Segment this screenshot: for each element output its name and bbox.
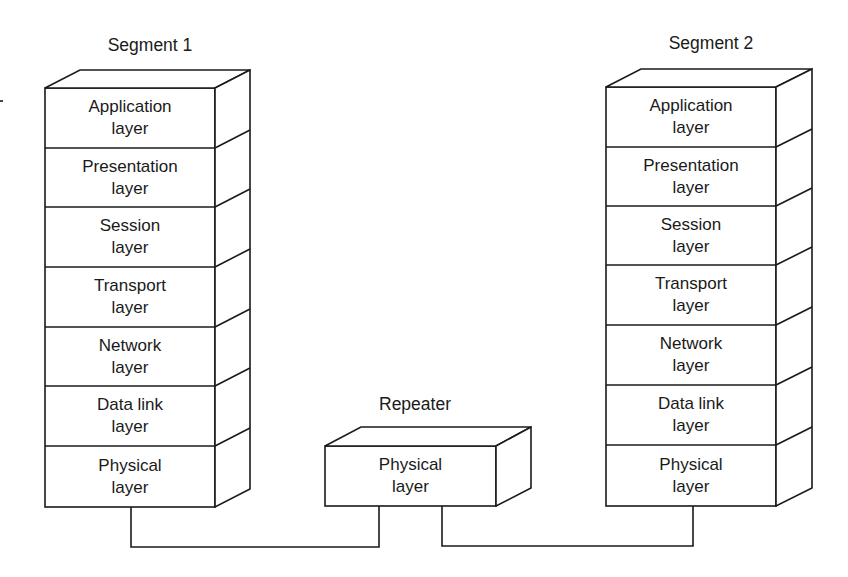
layer-name: Network [99, 335, 161, 357]
layer-suffix: layer [112, 237, 149, 259]
segment1-network-layer: Network layer [45, 327, 215, 386]
segment1-title: Segment 1 [80, 35, 220, 56]
segment2-session-layer: Session layer [606, 206, 776, 265]
layer-suffix: layer [112, 178, 149, 200]
layer-suffix: layer [673, 117, 710, 139]
layer-name: Application [88, 96, 171, 118]
segment2-physical-layer: Physical layer [606, 445, 776, 506]
layer-name: Session [661, 214, 721, 236]
layer-suffix: layer [673, 236, 710, 258]
layer-name: Network [660, 333, 722, 355]
segment2-transport-layer: Transport layer [606, 265, 776, 325]
layer-name: Presentation [643, 155, 738, 177]
layer-suffix: layer [112, 477, 149, 499]
layer-suffix: layer [673, 415, 710, 437]
layer-name: Data link [658, 393, 724, 415]
segment1-session-layer: Session layer [45, 207, 215, 267]
layer-suffix: layer [112, 297, 149, 319]
segment2-datalink-layer: Data link layer [606, 385, 776, 445]
link-segment1-to-repeater [131, 506, 379, 547]
layer-suffix: layer [112, 118, 149, 140]
layer-name: Data link [97, 394, 163, 416]
segment1-datalink-layer: Data link layer [45, 386, 215, 446]
layer-name: Application [649, 95, 732, 117]
segment2-presentation-layer: Presentation layer [606, 147, 776, 206]
segment2-title: Segment 2 [641, 33, 781, 54]
segment1-transport-layer: Transport layer [45, 267, 215, 327]
segment1-application-layer: Application layer [45, 88, 215, 148]
segment2-application-layer: Application layer [606, 87, 776, 147]
layer-name: Physical [659, 454, 722, 476]
layer-suffix: layer [112, 416, 149, 438]
layer-name: Transport [655, 273, 727, 295]
segment1-physical-layer: Physical layer [45, 446, 215, 507]
layer-suffix: layer [673, 476, 710, 498]
layer-suffix: layer [673, 177, 710, 199]
layer-name: Physical [379, 454, 442, 476]
layer-name: Presentation [82, 156, 177, 178]
link-repeater-to-segment2 [442, 506, 693, 546]
layer-name: Transport [94, 275, 166, 297]
repeater-physical-layer: Physical layer [325, 446, 496, 506]
layer-suffix: layer [112, 357, 149, 379]
osi-repeater-diagram: Segment 1 Segment 2 Repeater Application… [0, 0, 848, 577]
layer-name: Physical [98, 455, 161, 477]
segment1-presentation-layer: Presentation layer [45, 148, 215, 207]
segment2-network-layer: Network layer [606, 325, 776, 385]
layer-name: Session [100, 215, 160, 237]
repeater-title: Repeater [355, 394, 475, 415]
layer-suffix: layer [673, 295, 710, 317]
layer-suffix: layer [392, 476, 429, 498]
layer-suffix: layer [673, 355, 710, 377]
